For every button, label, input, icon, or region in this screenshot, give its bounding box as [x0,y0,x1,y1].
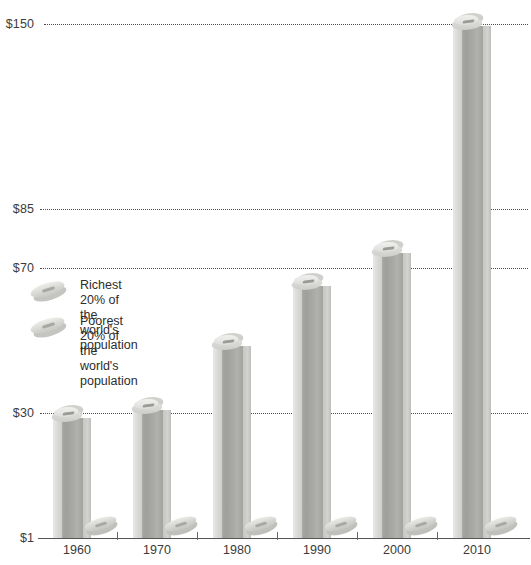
bar-face-left [213,346,222,538]
money-stack-icon [30,316,70,338]
bar-face-front [62,418,83,538]
bar-poorest-2000[interactable] [404,515,440,535]
y-tick-label-1: $1 [0,532,34,545]
x-tick-label-1960: 1960 [47,543,107,557]
bar-face-front [142,410,163,538]
money-stack-icon [30,280,70,302]
bar-face-left [453,26,462,538]
x-tick-label-2010: 2010 [447,543,507,557]
bar-face-left [53,418,62,538]
chart-canvas: $150 $85 $70 $30 $1 [0,0,531,565]
y-tick-label-85: $85 [0,203,34,216]
axis-baseline [38,538,530,539]
bar-poorest-1960[interactable] [84,515,120,535]
y-tick-label-150: $150 [0,18,34,31]
bar-cap-icon [452,13,494,30]
bar-face-left [133,410,142,538]
y-tick-label-30: $30 [0,407,34,420]
bar-face-left [293,286,302,538]
bar-richest-1980[interactable] [213,346,251,538]
bar-cap-icon [292,273,334,290]
bar-cap-icon [212,333,254,350]
bar-cap-icon [372,240,414,257]
x-tick-label-1990: 1990 [287,543,347,557]
bar-face-right [323,286,331,538]
bar-face-front [462,26,483,538]
bar-poorest-1970[interactable] [164,515,200,535]
x-tick-label-2000: 2000 [367,543,427,557]
bar-face-front [382,253,403,538]
bar-face-front [222,346,243,538]
bar-richest-2010[interactable] [453,26,491,538]
y-tick-label-70: $70 [0,262,34,275]
bar-face-left [373,253,382,538]
bar-face-front [302,286,323,538]
bar-poorest-2010[interactable] [484,515,520,535]
bar-poorest-1980[interactable] [244,515,280,535]
bar-face-right [243,346,251,538]
bar-cap-icon [132,397,174,414]
x-tick-label-1970: 1970 [127,543,187,557]
bar-face-right [403,253,411,538]
x-tick-label-1980: 1980 [207,543,267,557]
bar-richest-1990[interactable] [293,286,331,538]
bar-face-right [483,26,491,538]
legend-label-poorest: Poorest 20% of the world's population [80,314,138,389]
bar-cap-icon [52,405,94,422]
bar-poorest-1990[interactable] [324,515,360,535]
bar-richest-2000[interactable] [373,253,411,538]
